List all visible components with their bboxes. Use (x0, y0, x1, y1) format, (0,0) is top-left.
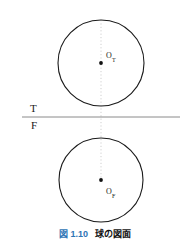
top-view-center-label-subscript: T (112, 57, 116, 63)
figure-caption: 図 1.10球の図面 (0, 228, 190, 240)
figure-caption-title: 球の図面 (95, 229, 131, 239)
front-view-center-point (99, 178, 103, 182)
top-view-center-label-base: O (106, 51, 112, 60)
front-view-center-label-base: O (106, 187, 112, 196)
front-view-center-label: OF (106, 188, 115, 198)
front-view-zone-label: F (31, 120, 37, 131)
front-view-center-label-subscript: F (112, 193, 115, 199)
sphere-projection-drawing (0, 0, 190, 248)
top-view-center-point (99, 61, 103, 65)
figure-caption-number: 図 1.10 (59, 229, 88, 239)
figure-container: T F OT OF 図 1.10球の図面 (0, 0, 190, 248)
top-view-zone-label: T (30, 103, 37, 114)
top-view-center-label: OT (106, 52, 115, 62)
